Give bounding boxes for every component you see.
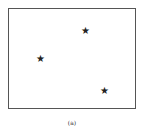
star-marker-2: ★ <box>80 26 90 36</box>
star-marker-3: ★ <box>99 86 109 96</box>
star-marker-1: ★ <box>35 54 45 64</box>
figure-frame <box>8 8 136 109</box>
figure-caption: (a) <box>0 119 144 126</box>
